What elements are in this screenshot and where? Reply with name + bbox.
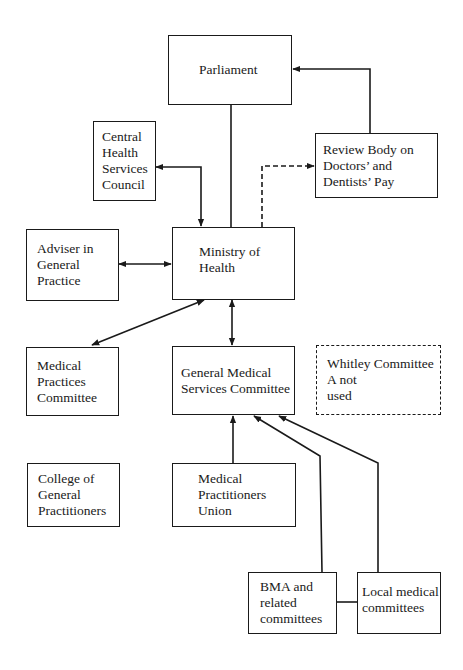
node-label: related — [260, 595, 336, 611]
node-label: Local medical — [362, 584, 440, 600]
node-label: General — [37, 257, 118, 273]
node-whitley-committee: Whitley Committee A not used — [316, 345, 441, 415]
node-parliament: Parliament — [168, 35, 292, 105]
node-label: Practitioners — [38, 503, 119, 519]
node-label: Services Committee — [181, 381, 294, 397]
node-label: Medical — [198, 471, 295, 487]
node-medical-practitioners-union: Medical Practitioners Union — [172, 463, 296, 527]
node-adviser-general-practice: Adviser in General Practice — [26, 229, 119, 301]
node-label: BMA and — [260, 579, 336, 595]
node-label: Practice — [37, 273, 118, 289]
node-local-medical-committees: Local medical committees — [357, 572, 441, 634]
node-label: Doctors’ and — [323, 158, 437, 174]
node-label: Council — [102, 177, 155, 193]
node-label: Services — [102, 161, 155, 177]
ministry-review-body-dashed-arrow — [262, 166, 314, 227]
node-label: used — [327, 388, 440, 404]
organisation-diagram: Parliament Central Health Services Counc… — [0, 0, 463, 670]
ministry-mpc-arrow — [92, 300, 204, 345]
node-label: Parliament — [199, 62, 291, 78]
chsc-ministry-arrow — [156, 167, 201, 226]
node-label: committees — [260, 611, 336, 627]
node-label: committees — [362, 600, 440, 616]
node-label: College of — [38, 471, 119, 487]
node-label: Ministry of — [199, 244, 294, 260]
node-bma-related-committees: BMA and related committees — [248, 572, 337, 634]
node-general-medical-services-committee: General Medical Services Committee — [172, 346, 295, 415]
node-label: Dentists’ Pay — [323, 174, 437, 190]
node-label: A not — [327, 372, 440, 388]
node-label: Central — [102, 129, 155, 145]
node-label: Adviser in — [37, 241, 118, 257]
node-review-body: Review Body on Doctors’ and Dentists’ Pa… — [315, 133, 438, 198]
node-label: Practitioners — [198, 487, 295, 503]
node-label: Health — [102, 145, 155, 161]
node-label: Practices — [37, 374, 118, 390]
node-ministry-of-health: Ministry of Health — [172, 227, 295, 300]
node-label: Health — [199, 260, 294, 276]
node-label: Medical — [37, 358, 118, 374]
node-label: General — [38, 487, 119, 503]
node-label: Union — [198, 503, 295, 519]
node-label: General Medical — [181, 365, 294, 381]
node-central-health-services-council: Central Health Services Council — [93, 121, 156, 201]
node-label: Committee — [37, 390, 118, 406]
node-label: Review Body on — [323, 142, 437, 158]
node-label: Whitley Committee — [327, 356, 440, 372]
node-medical-practices-committee: Medical Practices Committee — [26, 347, 119, 416]
node-college-general-practitioners: College of General Practitioners — [27, 463, 120, 527]
review-body-to-parliament-arrow — [293, 69, 370, 133]
